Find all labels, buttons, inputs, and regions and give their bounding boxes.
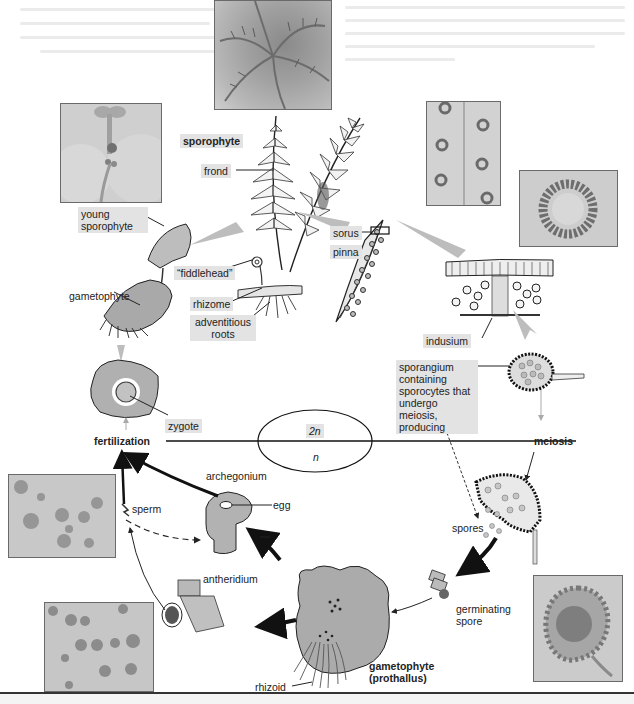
archegonium-drawing — [206, 492, 272, 554]
germinating-spore-drawing — [429, 570, 449, 599]
label-pinna: pinna — [330, 245, 362, 259]
label-frond: frond — [201, 164, 231, 178]
label-sorus: sorus — [330, 226, 362, 240]
label-adventitious-roots: adventitious roots — [190, 315, 256, 341]
label-sporangium: sporangium containing sporocytes that un… — [396, 360, 478, 434]
label-young-sporophyte: young sporophyte — [78, 207, 148, 233]
zygote-archegonium-drawing — [91, 360, 168, 430]
sorus-cross-section-drawing — [446, 259, 553, 338]
young-sporophyte-on-gametophyte-drawing — [100, 224, 191, 338]
label-meiosis: meiosis — [534, 435, 573, 447]
label-fiddlehead: “fiddlehead” — [174, 266, 235, 280]
life-cycle-drawing — [0, 0, 634, 704]
label-antheridium: antheridium — [203, 573, 258, 585]
label-2n: 2n — [306, 424, 324, 438]
label-rhizome: rhizome — [190, 297, 233, 311]
label-zygote: zygote — [165, 419, 202, 433]
label-gametophyte: gametophyte — [69, 290, 130, 302]
bottom-page-strip — [0, 694, 634, 704]
sperm-drawing — [122, 504, 129, 516]
label-n: n — [313, 451, 319, 463]
label-fertilization: fertilization — [94, 435, 150, 447]
label-germinating-spore: germinating spore — [456, 603, 516, 627]
label-indusium: indusium — [423, 334, 471, 348]
label-spores: spores — [452, 522, 484, 534]
label-sporophyte: sporophyte — [180, 134, 243, 148]
antheridium-drawing — [162, 580, 224, 632]
label-egg: egg — [273, 499, 291, 511]
label-archegonium: archegonium — [206, 470, 267, 482]
label-sperm: sperm — [132, 503, 161, 515]
sporophyte-fronds-drawing — [238, 116, 364, 318]
sporangium-drawing — [460, 354, 584, 420]
label-gametophyte-prothallus: gametophyte (prothallus) — [369, 660, 439, 684]
